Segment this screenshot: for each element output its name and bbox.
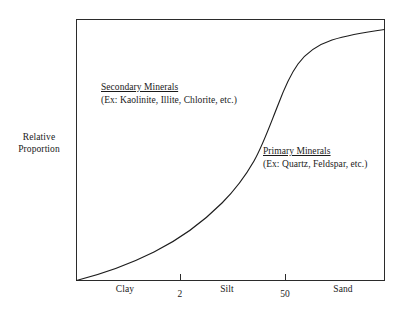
y-axis-label: Relative Proportion — [6, 131, 72, 155]
tick-mark-2 — [180, 274, 181, 281]
y-axis-label-line1: Relative — [6, 131, 72, 143]
annotation-secondary-title: Secondary Minerals — [101, 81, 178, 94]
tick-mark-50 — [285, 274, 286, 281]
annotation-primary-title: Primary Minerals — [263, 145, 331, 158]
x-tick-label-2: 2 — [166, 289, 194, 299]
x-tick-label-sand: Sand — [317, 284, 369, 294]
x-tick-label-50: 50 — [271, 289, 299, 299]
x-tick-label-clay: Clay — [99, 284, 151, 294]
annotation-secondary-subtitle: (Ex: Kaolinite, Illite, Chlorite, etc.) — [101, 94, 237, 107]
x-tick-label-silt: Silt — [201, 284, 253, 294]
annotation-primary-subtitle: (Ex: Quartz, Feldspar, etc.) — [263, 158, 367, 171]
annotation-secondary-minerals: Secondary Minerals (Ex: Kaolinite, Illit… — [101, 81, 237, 106]
y-axis-label-line2: Proportion — [6, 143, 72, 155]
annotation-primary-minerals: Primary Minerals (Ex: Quartz, Feldspar, … — [263, 145, 367, 170]
mineral-proportion-figure: Relative Proportion Clay 2 Silt 50 Sand … — [0, 0, 404, 312]
